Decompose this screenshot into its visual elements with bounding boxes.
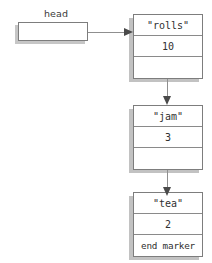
node-jam-data-cell: "jam" [134, 106, 202, 127]
node-rolls: "rolls" 10 [133, 14, 203, 79]
node-rolls-data-cell: "rolls" [134, 15, 202, 36]
head-to-node1-arrowhead [124, 28, 133, 36]
node-tea: "tea" 2 end marker [133, 192, 203, 257]
node-tea-next-cell: end marker [134, 235, 202, 256]
node-jam-next-cell [134, 148, 202, 169]
node1-to-node2-arrowhead [163, 96, 171, 105]
node-jam-count-cell: 3 [134, 127, 202, 148]
node-tea-count-cell: 2 [134, 214, 202, 235]
node-jam: "jam" 3 [133, 105, 203, 170]
head-pointer-label: head [26, 8, 86, 19]
node-tea-data-cell: "tea" [134, 193, 202, 214]
linked-list-diagram: head "rolls" 10 "jam" 3 "tea" 2 end mark… [0, 0, 212, 263]
head-pointer-box [18, 22, 88, 41]
node-rolls-next-cell [134, 57, 202, 78]
node-rolls-count-cell: 10 [134, 36, 202, 57]
node2-to-node3-connector [167, 168, 168, 189]
node1-to-node2-connector [167, 77, 168, 98]
node2-to-node3-arrowhead [163, 187, 171, 196]
